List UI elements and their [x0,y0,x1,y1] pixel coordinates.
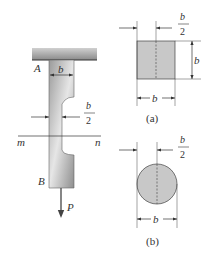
label-m: m [17,136,25,148]
fixed-support [32,48,97,60]
label-b-point: B [38,175,45,187]
b-offset-den: 2 [180,149,185,160]
neck-num: b [86,100,91,111]
label-n: n [95,136,101,148]
a-offset-den: 2 [180,26,185,37]
a-offset-num: b [180,11,185,22]
neck-den: 2 [86,115,91,126]
a-height-b: b [194,54,200,66]
label-a: A [33,62,41,74]
circular-section [137,164,177,204]
caption-a: (a) [146,112,159,125]
label-width-b: b [58,63,64,75]
bar [49,60,74,188]
b-offset-num: b [180,134,185,145]
label-p: P [66,201,74,213]
a-width-b: b [152,92,158,104]
diagram: A b b 2 m n B P b 2 b b (a) b 2 b (b [0,0,210,259]
caption-b: (b) [146,235,159,248]
b-width-b: b [153,213,159,225]
